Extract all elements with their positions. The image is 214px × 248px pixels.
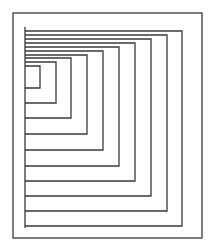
nested-rectangles-group: [25, 31, 182, 226]
nested-rect-6: [25, 47, 119, 166]
nested-rectangles-diagram: [0, 0, 214, 248]
nested-rect-1: [25, 66, 40, 88]
